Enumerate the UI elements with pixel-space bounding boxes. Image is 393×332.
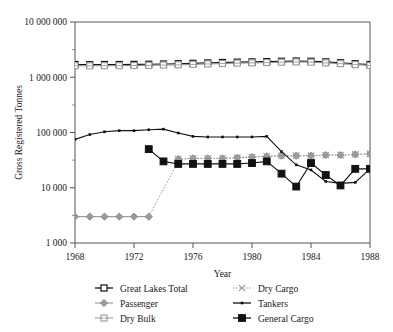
data-point: [74, 138, 77, 141]
series-dry-bulk: [72, 59, 373, 69]
data-point: [308, 160, 315, 167]
passenger-jump-connector: [149, 161, 179, 216]
data-point: [133, 129, 136, 132]
x-axis-tick-label: 1984: [302, 252, 321, 262]
legend-label: Tankers: [258, 299, 288, 309]
data-point: [177, 132, 180, 135]
line-chart: 1 00010 000100 0001 000 00010 000 000196…: [0, 0, 393, 332]
data-point: [101, 213, 108, 220]
data-point: [324, 180, 327, 183]
data-point: [88, 133, 91, 136]
data-point: [337, 182, 344, 189]
legend-label: Dry Bulk: [120, 314, 156, 324]
data-point: [249, 160, 256, 167]
y-axis-tick-label: 10 000: [41, 183, 67, 193]
y-axis-tick-label: 1 000: [46, 238, 68, 248]
data-point: [265, 135, 268, 138]
data-point: [251, 136, 254, 139]
legend-marker: [239, 315, 246, 322]
data-point: [310, 169, 313, 172]
data-point: [367, 165, 374, 172]
y-axis-tick-label: 10 000 000: [24, 17, 67, 27]
data-point: [103, 130, 106, 133]
chart-container: 1 00010 000100 0001 000 00010 000 000196…: [0, 0, 393, 332]
data-point: [206, 136, 209, 139]
legend-marker: [101, 285, 107, 291]
legend-item[interactable]: General Cargo: [233, 314, 314, 324]
data-point: [352, 165, 359, 172]
legend-item[interactable]: Dry Cargo: [233, 284, 298, 294]
x-axis-tick-label: 1972: [125, 252, 144, 262]
legend-item[interactable]: Dry Bulk: [95, 314, 156, 324]
data-point: [162, 128, 165, 131]
data-point: [280, 150, 283, 153]
data-point: [234, 161, 241, 168]
legend-item[interactable]: Tankers: [233, 299, 288, 309]
chart-legend: Great Lakes TotalPassengerDry BulkDry Ca…: [95, 284, 314, 324]
y-axis-tick-label: 1 000 000: [29, 73, 67, 83]
legend-label: General Cargo: [258, 314, 314, 324]
data-point: [219, 161, 226, 168]
data-point: [145, 146, 152, 153]
data-point: [175, 161, 182, 168]
data-point: [190, 161, 197, 168]
legend-item[interactable]: Great Lakes Total: [95, 284, 188, 294]
data-point: [160, 158, 167, 165]
x-axis-title: Year: [214, 269, 232, 279]
data-point: [86, 213, 93, 220]
data-point: [293, 183, 300, 190]
x-axis-tick-label: 1968: [66, 252, 85, 262]
data-point: [116, 213, 123, 220]
legend-label: Great Lakes Total: [120, 284, 188, 294]
data-point: [263, 158, 270, 165]
data-point: [204, 161, 211, 168]
x-axis-tick-label: 1980: [243, 252, 262, 262]
data-point: [295, 164, 298, 167]
legend-marker: [100, 299, 107, 306]
data-point: [278, 170, 285, 177]
x-axis-tick-label: 1988: [361, 252, 380, 262]
legend-marker: [241, 302, 244, 305]
data-point: [192, 135, 195, 138]
x-axis-tick-label: 1976: [184, 252, 203, 262]
legend-label: Dry Cargo: [258, 284, 298, 294]
y-axis-title: Gross Registered Tonnes: [14, 85, 24, 180]
data-point: [236, 136, 239, 139]
data-point: [130, 213, 137, 220]
data-point: [118, 129, 121, 132]
legend-label: Passenger: [120, 299, 159, 309]
legend-item[interactable]: Passenger: [95, 299, 159, 309]
data-point: [322, 172, 329, 179]
data-point: [145, 213, 152, 220]
y-axis-tick-label: 100 000: [36, 128, 67, 138]
data-point: [71, 213, 78, 220]
data-point: [147, 128, 150, 131]
data-point: [354, 181, 357, 184]
data-point: [221, 136, 224, 139]
